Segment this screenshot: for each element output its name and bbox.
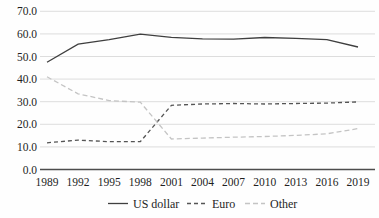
- x-tick-label-2019: 2019: [347, 176, 370, 188]
- y-tick-label-60.0: 60.0: [17, 28, 37, 40]
- gridlines: [40, 11, 375, 169]
- legend-item-euro: Euro: [187, 197, 235, 211]
- series-lines: [47, 34, 358, 143]
- x-tick-label-1995: 1995: [98, 176, 121, 188]
- y-tick-label-50.0: 50.0: [17, 51, 37, 63]
- y-tick-label-30.0: 30.0: [17, 96, 37, 108]
- y-tick-label-10.0: 10.0: [17, 141, 37, 153]
- y-tick-label-0.0: 0.0: [23, 164, 38, 176]
- chart-container: 0.010.020.030.040.050.060.070.0 19891992…: [0, 0, 379, 218]
- other-legend-label: Other: [270, 197, 297, 211]
- legend-item-us-dollar: US dollar: [108, 197, 179, 211]
- x-tick-label-1992: 1992: [67, 176, 90, 188]
- x-tick-label-2007: 2007: [222, 176, 245, 188]
- x-tick-label-2013: 2013: [284, 176, 307, 188]
- us-dollar-legend-label: US dollar: [133, 197, 179, 211]
- x-tick-label-2010: 2010: [253, 176, 276, 188]
- euro-legend-label: Euro: [212, 197, 235, 211]
- y-tick-label-20.0: 20.0: [17, 118, 37, 130]
- legend: US dollar Euro Other: [108, 197, 297, 211]
- euro-line: [47, 102, 358, 143]
- other-line: [47, 77, 358, 139]
- x-tick-label-1989: 1989: [36, 176, 59, 188]
- us-dollar-line: [47, 34, 358, 62]
- x-tick-label-1998: 1998: [129, 176, 152, 188]
- x-tick-label-2001: 2001: [160, 176, 183, 188]
- y-tick-label-40.0: 40.0: [17, 73, 37, 85]
- legend-item-other: Other: [245, 197, 297, 211]
- y-tick-label-70.0: 70.0: [17, 5, 37, 17]
- y-axis-labels: 0.010.020.030.040.050.060.070.0: [17, 5, 37, 175]
- x-tick-label-2004: 2004: [191, 176, 214, 188]
- x-axis-labels: 1989199219951998200120042007201020132016…: [36, 176, 370, 188]
- currency-shares-line-chart: 0.010.020.030.040.050.060.070.0 19891992…: [0, 0, 379, 218]
- x-tick-label-2016: 2016: [315, 176, 338, 188]
